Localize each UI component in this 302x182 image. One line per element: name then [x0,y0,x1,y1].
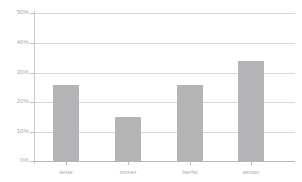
gridline-50 [34,13,295,14]
gridline-40 [34,43,295,44]
bar-lente [53,85,79,163]
plot-area [34,13,295,162]
bar-zomer [115,117,141,162]
x-tick-lente [66,162,67,165]
x-tick-herfst [190,162,191,165]
y-axis-label-50: 50% [17,9,29,16]
x-axis-label-lente: lente [46,168,86,176]
x-tick-winter [251,162,252,165]
bar-winter [238,61,264,162]
y-axis-line [34,11,35,164]
x-tick-zomer [128,162,129,165]
bar-chart: 50% 40% 30% 20% 10% 0% lente zomer herfs… [0,0,302,182]
y-axis-label-0: 0% [20,157,29,164]
y-axis-label-10: 10% [17,128,29,135]
x-axis-label-herfst: herfst [170,168,210,176]
x-axis-label-winter: winter [231,168,271,176]
y-axis-labels: 50% 40% 30% 20% 10% 0% [0,0,29,182]
x-axis-label-zomer: zomer [108,168,148,176]
y-axis-label-20: 20% [17,98,29,105]
bar-herfst [177,85,203,163]
y-axis-label-30: 30% [17,69,29,76]
y-axis-label-40: 40% [17,39,29,46]
